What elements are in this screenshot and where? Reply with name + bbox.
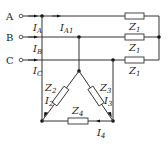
phase-label-b: B xyxy=(6,32,13,43)
phase-label-c: C xyxy=(6,55,14,66)
z1-label-b: Z1 xyxy=(128,42,140,55)
current-label-ic: IC xyxy=(32,65,43,78)
i3-label: I3 xyxy=(103,95,113,108)
z1-label-c: Z1 xyxy=(128,65,140,78)
phase-label-a: A xyxy=(5,11,14,22)
current-label-ia: IA xyxy=(32,22,42,35)
terminals xyxy=(19,14,23,62)
circuit-diagram: A B C Z1 Z1 Z1 xyxy=(0,0,168,150)
z1-label-a: Z1 xyxy=(128,21,140,34)
current-label-ib: IB xyxy=(32,43,42,56)
current-label-ia1: IA1 xyxy=(59,22,73,35)
i2-label: I2 xyxy=(44,95,54,108)
i4-label: I4 xyxy=(96,127,105,140)
z2-label: Z2 xyxy=(44,82,57,95)
z4-label: Z4 xyxy=(71,105,83,118)
z3-label: Z3 xyxy=(99,82,112,95)
